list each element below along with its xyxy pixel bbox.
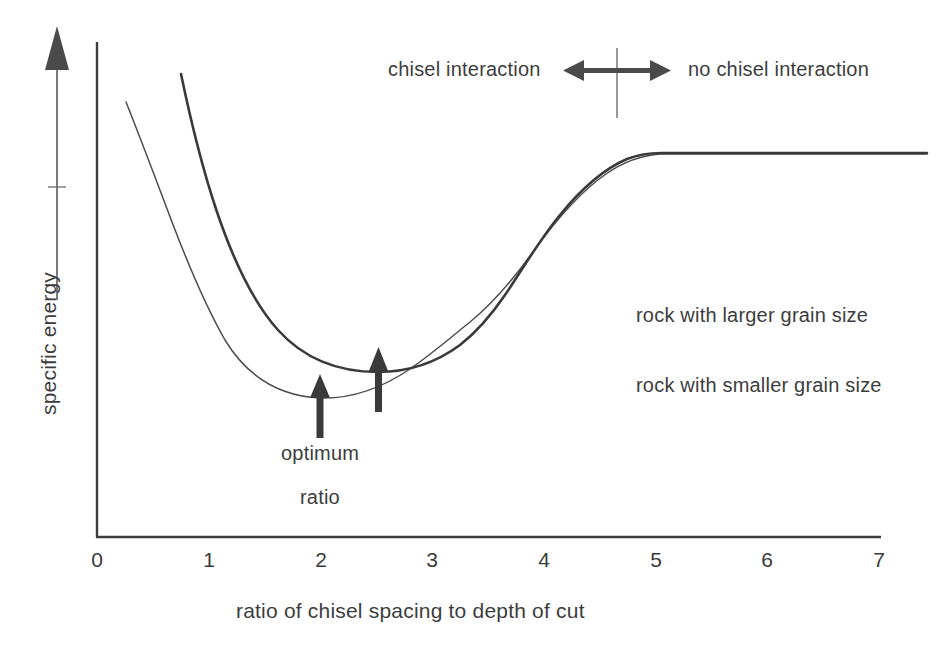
x-tick-7: 7 [859, 549, 899, 570]
callout-optimum: optimum [281, 443, 359, 463]
chart-canvas [0, 0, 945, 654]
x-tick-4: 4 [524, 549, 564, 570]
y-axis-title: specific energy [38, 272, 59, 415]
annotation-chisel-interaction: chisel interaction [388, 59, 541, 79]
series-label-smaller-grain: rock with smaller grain size [636, 375, 882, 395]
x-tick-0: 0 [77, 549, 117, 570]
x-tick-2: 2 [301, 549, 341, 570]
curve-smaller-grain [126, 102, 927, 398]
x-tick-6: 6 [747, 549, 787, 570]
optimum-arrow-smaller-grain-icon [310, 374, 330, 438]
x-tick-1: 1 [189, 549, 229, 570]
series-label-larger-grain: rock with larger grain size [636, 305, 868, 325]
x-tick-3: 3 [412, 549, 452, 570]
optimum-arrow-larger-grain-icon [369, 347, 389, 412]
curve-larger-grain [181, 74, 927, 372]
annotation-no-chisel-interaction: no chisel interaction [688, 59, 869, 79]
callout-ratio: ratio [300, 487, 340, 507]
x-axis-title: ratio of chisel spacing to depth of cut [236, 600, 585, 621]
y-axis-direction-arrow [45, 26, 69, 300]
chart-figure: specific energy chisel interaction no ch… [0, 0, 945, 654]
x-tick-5: 5 [636, 549, 676, 570]
